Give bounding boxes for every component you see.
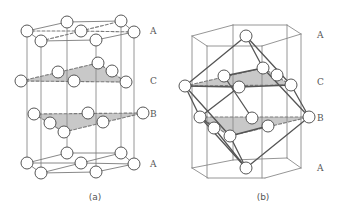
fig-a-atom bbox=[35, 35, 47, 47]
figure-b-caption: (b) bbox=[257, 192, 270, 202]
diagram-canvas: ACBA ACBA (a) (b) bbox=[0, 0, 340, 213]
fig-b-prism-edge bbox=[287, 158, 301, 168]
fig-a-atom bbox=[90, 166, 102, 178]
fig-a-atom bbox=[128, 26, 140, 38]
fig-b-layer-label-b: B bbox=[317, 113, 324, 123]
fig-b-atom bbox=[240, 162, 252, 174]
fig-a-atom bbox=[137, 107, 149, 119]
fig-b-prism-edge bbox=[262, 34, 301, 46]
fig-a-atom bbox=[68, 75, 80, 87]
fig-a-atom bbox=[21, 25, 33, 37]
fig-a-atom bbox=[90, 34, 102, 46]
fig-b-cube-edge bbox=[263, 68, 309, 117]
fig-b-atom bbox=[233, 81, 245, 93]
fig-b-prism-edge bbox=[192, 36, 207, 46]
fig-b-prism-edge bbox=[192, 168, 208, 178]
fig-a-atom bbox=[15, 75, 27, 87]
figure-a-hcp-stacking: ACBA bbox=[15, 15, 157, 179]
fig-a-bond-line bbox=[81, 163, 134, 164]
fig-a-atom bbox=[75, 157, 87, 169]
fig-b-atom bbox=[262, 120, 274, 132]
fig-b-atom bbox=[224, 130, 236, 142]
fig-b-atom bbox=[246, 112, 258, 124]
fig-a-atom bbox=[58, 126, 70, 138]
fig-a-atom bbox=[115, 15, 127, 27]
fig-a-atom bbox=[52, 66, 64, 78]
fig-a-layer-label-b: B bbox=[150, 109, 157, 119]
fig-a-atom bbox=[92, 57, 104, 69]
fig-b-prism-edge bbox=[287, 25, 301, 34]
figure-b-fcc-stacking: ACBA bbox=[179, 25, 324, 178]
figure-a-caption: (a) bbox=[89, 192, 102, 202]
fig-b-atom bbox=[194, 111, 206, 123]
fig-a-atom bbox=[106, 65, 118, 77]
fig-a-bond-line bbox=[67, 21, 121, 22]
fig-a-atom bbox=[35, 167, 47, 179]
fig-a-bond-line bbox=[41, 172, 96, 173]
fig-b-atom bbox=[303, 111, 315, 123]
fig-b-prism-edge bbox=[265, 168, 301, 178]
fig-a-atom bbox=[21, 157, 33, 169]
fig-b-prism-edge bbox=[192, 160, 233, 168]
fig-a-layer-label-c: C bbox=[150, 76, 157, 86]
fig-b-atom bbox=[285, 79, 297, 91]
fig-a-atom bbox=[61, 16, 73, 28]
fig-a-layer-label-a: A bbox=[149, 159, 157, 169]
fig-b-atom bbox=[208, 122, 220, 134]
fig-b-layer-label-a: A bbox=[316, 30, 324, 40]
fig-b-atom bbox=[179, 80, 191, 92]
fig-a-atom bbox=[75, 25, 87, 37]
crystal-structure-diagram: ACBA ACBA (a) (b) bbox=[0, 0, 340, 213]
fig-a-atom bbox=[115, 147, 127, 159]
fig-a-atom bbox=[82, 107, 94, 119]
fig-a-bond-line bbox=[41, 40, 96, 41]
fig-a-atom bbox=[44, 117, 56, 129]
fig-a-atom bbox=[61, 147, 73, 159]
fig-a-dashed-line bbox=[81, 31, 134, 32]
fig-b-layer-label-c: C bbox=[317, 77, 324, 87]
fig-b-atom bbox=[271, 69, 283, 81]
fig-b-atom bbox=[240, 30, 252, 42]
fig-a-atom bbox=[28, 108, 40, 120]
fig-a-atom bbox=[128, 158, 140, 170]
fig-a-layer-label-a: A bbox=[149, 26, 157, 36]
fig-a-atom bbox=[120, 76, 132, 88]
fig-a-atom bbox=[97, 116, 109, 128]
fig-b-atom bbox=[218, 70, 230, 82]
fig-b-prism-edge bbox=[192, 25, 233, 36]
fig-b-atom bbox=[257, 62, 269, 74]
fig-b-layer-label-a: A bbox=[316, 163, 324, 173]
